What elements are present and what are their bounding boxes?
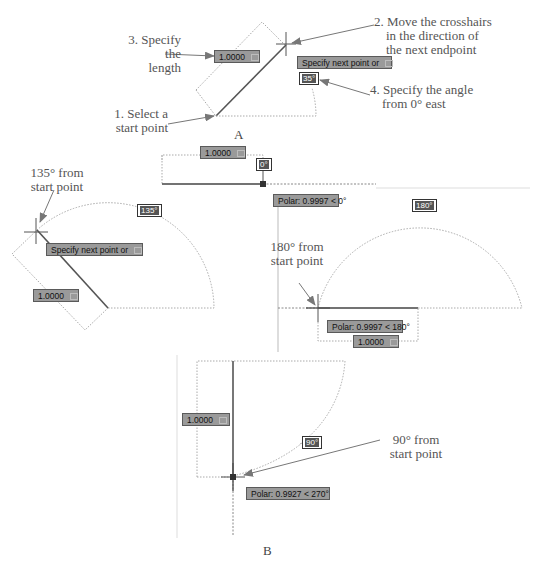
annotation-step1: 1. Select a start point (98, 107, 168, 135)
annotation-line: 135° from (22, 166, 92, 180)
down-arrow-icon[interactable] (385, 60, 393, 67)
polar-text: Polar: 0.9927 < 270° (251, 489, 329, 499)
annotation-line: length (111, 61, 181, 75)
command-prompt-a: Specify next point or (297, 56, 392, 69)
down-arrow-icon[interactable] (134, 247, 142, 254)
annotation-180: 180° from start point (262, 240, 332, 268)
input-icon (251, 54, 259, 61)
angle-tooltip-90: 90° (302, 436, 322, 449)
input-icon (219, 417, 227, 424)
annotation-line: 1. Select a (98, 107, 168, 121)
length-value: 1.0000 (38, 291, 64, 301)
angle-tooltip-b-zero: 0° (256, 158, 272, 171)
angle-value: 90° (305, 438, 319, 447)
polar-text: Polar: 0.9997 < 0° (278, 196, 346, 206)
panel-b-90-drawing (177, 355, 380, 538)
annotation-step3: 3. Specify the length (111, 33, 181, 75)
length-input-b-zero[interactable]: 1.0000 (200, 146, 246, 159)
annotation-line: 3. Specify the (111, 33, 181, 61)
annotation-line: 90° from (382, 433, 450, 447)
length-input-180[interactable]: 1.0000 (353, 335, 399, 348)
annotation-line: 2. Move the crosshairs (374, 15, 492, 29)
annotation-line: start point (262, 254, 332, 268)
polar-tooltip-b-zero: Polar: 0.9997 < 0° (273, 194, 339, 207)
annotation-90: 90° from start point (382, 433, 450, 461)
panel-caption-b: B (263, 543, 272, 559)
panel-a-leader-lines (165, 25, 374, 124)
input-icon (390, 339, 398, 346)
angle-value: 135° (140, 206, 159, 215)
length-input-90[interactable]: 1.0000 (182, 413, 230, 426)
annotation-135: 135° from start point (22, 166, 92, 194)
length-value: 1.0000 (358, 337, 384, 347)
prompt-text: Specify next point or (51, 245, 128, 255)
length-value: 1.0000 (187, 415, 213, 425)
angle-value: 35° (302, 74, 316, 83)
polar-tooltip-180: Polar: 0.9997 < 180° (327, 320, 403, 333)
annotation-line: start point (382, 447, 450, 461)
angle-value: 180° (415, 201, 434, 210)
annotation-step2: 2. Move the crosshairs in the direction … (374, 15, 492, 57)
angle-tooltip-180: 180° (412, 199, 437, 212)
annotation-line: from 0° east (370, 97, 473, 111)
angle-tooltip-a: 35° (299, 72, 319, 85)
prompt-text: Specify next point or (302, 58, 379, 68)
command-prompt-135: Specify next point or (46, 243, 143, 256)
annotation-line: start point (22, 180, 92, 194)
annotation-line: in the direction of (374, 29, 492, 43)
length-input-135[interactable]: 1.0000 (33, 289, 79, 302)
polar-text: Polar: 0.9997 < 180° (332, 322, 410, 332)
annotation-line: 180° from (262, 240, 332, 254)
input-icon (70, 293, 78, 300)
input-icon (237, 150, 245, 157)
length-value: 1.0000 (219, 52, 245, 62)
panel-caption-a: A (234, 127, 243, 143)
angle-tooltip-135: 135° (137, 204, 162, 217)
length-input-a[interactable]: 1.0000 (214, 50, 260, 63)
annotation-line: start point (98, 121, 168, 135)
annotation-step4: 4. Specify the angle from 0° east (370, 83, 473, 111)
angle-value: 0° (259, 160, 269, 169)
polar-tooltip-90: Polar: 0.9927 < 270° (246, 487, 330, 500)
annotation-line: 4. Specify the angle (370, 83, 473, 97)
length-value: 1.0000 (205, 148, 231, 158)
panel-a-drawing (196, 22, 316, 116)
panel-b-135-drawing (12, 190, 214, 330)
annotation-line: the next endpoint (374, 43, 492, 57)
